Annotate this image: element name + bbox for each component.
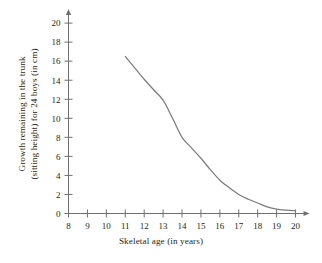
ticks-group — [65, 23, 296, 217]
x-tick-label: 12 — [140, 221, 149, 231]
y-tick-label: 4 — [56, 171, 61, 181]
y-tick-label: 8 — [56, 133, 61, 143]
yaxis-title-line-1: Growth remaining in the trunk — [16, 48, 28, 179]
x-tick-label: 20 — [291, 221, 301, 231]
x-tick-label: 15 — [196, 221, 206, 231]
axes-group — [66, 9, 310, 216]
x-tick-label: 10 — [102, 221, 112, 231]
y-tick-label: 6 — [56, 152, 61, 162]
chart-figure: 8910111213141516171819200246810121416182… — [0, 0, 322, 263]
x-tick-label: 18 — [253, 221, 263, 231]
yaxis-title: Growth remaining in the trunk (sitting h… — [16, 48, 40, 179]
yaxis-title-container: Growth remaining in the trunk (sitting h… — [0, 0, 56, 228]
x-tick-label: 17 — [234, 221, 244, 231]
x-tick-label: 14 — [178, 221, 188, 231]
data-curve — [125, 56, 295, 210]
y-tick-label: 2 — [56, 190, 61, 200]
y-axis-arrow-icon — [66, 9, 71, 15]
data-series-group — [125, 56, 295, 210]
x-tick-label: 13 — [159, 221, 169, 231]
x-tick-label: 11 — [121, 221, 130, 231]
x-tick-label: 8 — [66, 221, 71, 231]
x-tick-label: 16 — [215, 221, 225, 231]
x-tick-label: 19 — [272, 221, 282, 231]
xaxis-title: Skeletal age (in years) — [0, 236, 322, 246]
x-tick-label: 9 — [85, 221, 90, 231]
x-axis-arrow-icon — [304, 211, 310, 216]
y-tick-label: 0 — [56, 209, 61, 219]
yaxis-title-line-2: (sitting height) for 24 boys (in cm) — [28, 48, 40, 179]
